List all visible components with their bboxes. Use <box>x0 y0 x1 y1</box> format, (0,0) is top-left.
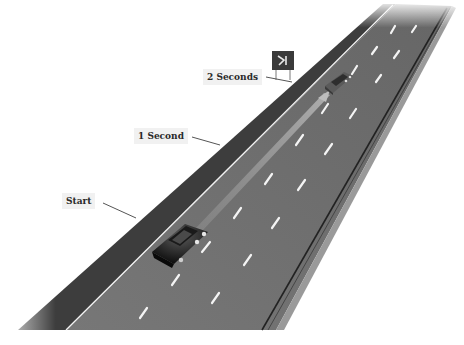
label-two-seconds: 2 Seconds <box>203 69 262 85</box>
label-one-second: 1 Second <box>134 128 188 144</box>
bottom-margin <box>0 331 464 345</box>
left-fade <box>0 0 464 345</box>
following-distance-diagram: 2 Seconds 1 Second Start <box>0 0 464 345</box>
label-start: Start <box>62 193 95 209</box>
highway-scene <box>0 0 464 345</box>
